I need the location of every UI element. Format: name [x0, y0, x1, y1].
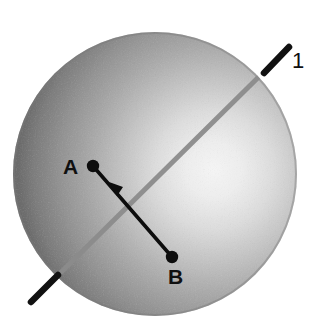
sphere-axis-diagram [0, 0, 329, 336]
rotation-axis-label: 1 [292, 50, 304, 72]
point-b-label: B [168, 266, 183, 287]
rotation-axis-lower-left-line [31, 275, 58, 302]
point-b-dot [166, 251, 178, 263]
point-a-label: A [63, 156, 78, 177]
figure-root: A B 1 [0, 0, 329, 336]
rotation-axis-upper-right-line [264, 47, 289, 73]
point-a-dot [87, 160, 99, 172]
